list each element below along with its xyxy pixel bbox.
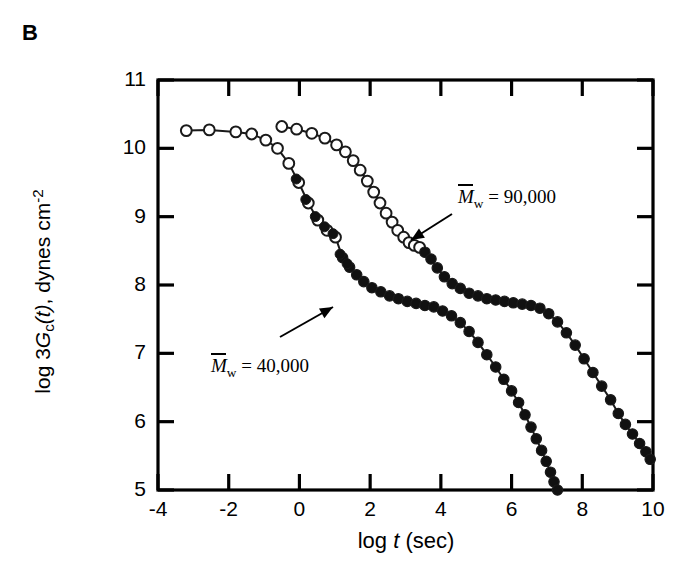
data-point-filled [605, 395, 615, 405]
data-point-filled [526, 422, 536, 432]
data-point-filled [473, 337, 483, 347]
data-point-filled [597, 381, 607, 391]
data-point-filled [513, 397, 523, 407]
data-point-filled [482, 350, 492, 360]
data-point-open [204, 124, 215, 135]
data-point-open [181, 125, 192, 136]
data-point-open [320, 133, 331, 144]
data-point-open [272, 143, 283, 154]
annotation-arrow-mw-90000-head [411, 228, 425, 240]
data-point-filled-overlap [310, 212, 320, 222]
data-point-filled [432, 263, 442, 273]
data-point-open [230, 126, 241, 137]
data-point-filled [627, 429, 637, 439]
data-point-open [355, 165, 366, 176]
data-point-filled [499, 374, 509, 384]
data-point-open [291, 124, 302, 135]
data-point-filled [541, 456, 551, 466]
data-point-filled [570, 340, 580, 350]
data-point-open [348, 155, 359, 166]
plot-frame [158, 80, 653, 490]
figure-panel-b: B log 3Gc(t), dynes cm-2 log t (sec) 111… [0, 0, 684, 573]
data-point-filled [552, 485, 562, 495]
data-point-filled [464, 326, 474, 336]
plot-area [0, 0, 684, 573]
data-point-open [260, 135, 271, 146]
data-point-filled [613, 408, 623, 418]
data-point-filled [545, 467, 555, 477]
data-point-open [368, 187, 379, 198]
data-point-filled [491, 362, 501, 372]
data-point-filled [620, 419, 630, 429]
data-point-filled [536, 445, 546, 455]
data-point-filled [426, 254, 436, 264]
data-point-open [283, 158, 294, 169]
data-point-filled [544, 309, 554, 319]
data-point-filled-overlap [301, 195, 311, 205]
data-point-open [246, 129, 257, 140]
data-point-open [340, 146, 351, 157]
data-point-filled [506, 386, 516, 396]
data-point-filled [552, 317, 562, 327]
data-point-open [375, 198, 386, 209]
data-point-filled-overlap [320, 222, 330, 232]
data-point-filled [579, 354, 589, 364]
data-point-open [306, 128, 317, 139]
data-point-filled-overlap [335, 249, 345, 259]
data-point-open [276, 121, 287, 132]
data-point-filled [455, 317, 465, 327]
data-point-filled [561, 328, 571, 338]
data-point-open [362, 176, 373, 187]
data-point-filled [645, 454, 655, 464]
data-point-filled-overlap [328, 229, 338, 239]
data-point-filled [588, 367, 598, 377]
data-point-filled [520, 410, 530, 420]
data-point-filled-overlap [342, 259, 352, 269]
data-point-filled [531, 434, 541, 444]
data-point-filled [446, 311, 456, 321]
data-point-filled-overlap [291, 174, 301, 184]
